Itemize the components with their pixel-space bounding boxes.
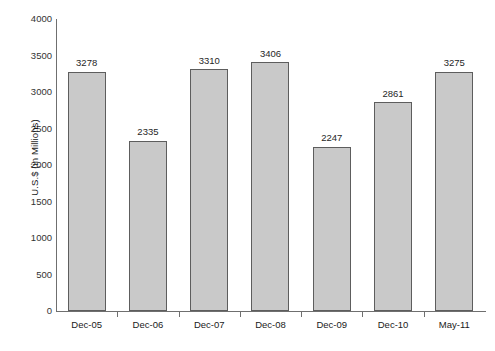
y-axis-tick-labels: 40003500300025002000150010005000 bbox=[0, 0, 52, 351]
y-axis-tick-label: 0 bbox=[8, 306, 52, 316]
x-axis-tick bbox=[301, 311, 302, 317]
x-axis-line bbox=[56, 311, 486, 312]
bar-value-label: 3406 bbox=[260, 49, 281, 59]
bar bbox=[374, 102, 412, 311]
bar-value-label: 2247 bbox=[321, 133, 342, 143]
bar bbox=[435, 72, 473, 311]
bar-group: 3278 bbox=[56, 19, 117, 311]
y-axis-tick-label: 3500 bbox=[8, 51, 52, 61]
bar-value-label: 2861 bbox=[382, 89, 403, 99]
bar bbox=[68, 72, 106, 311]
y-axis-title: U.S.$ (in Millions) bbox=[29, 98, 40, 218]
x-axis-tick bbox=[362, 311, 363, 317]
y-axis-tick-label: 3000 bbox=[8, 87, 52, 97]
chart-title-cropped bbox=[0, 0, 495, 7]
bar-group: 2861 bbox=[362, 19, 423, 311]
plot-area: 3278233533103406224728613275 bbox=[56, 19, 485, 311]
bar-value-label: 3278 bbox=[76, 58, 97, 68]
bar-group: 3406 bbox=[240, 19, 301, 311]
bar bbox=[190, 69, 228, 311]
bar-value-label: 2335 bbox=[137, 127, 158, 137]
y-axis-tick-label: 4000 bbox=[8, 14, 52, 24]
x-axis-category-label: May-11 bbox=[414, 320, 494, 330]
y-axis-tick-label: 500 bbox=[8, 270, 52, 280]
y-axis-tick-label: 1000 bbox=[8, 233, 52, 243]
bar-group: 2247 bbox=[301, 19, 362, 311]
x-axis-tick bbox=[179, 311, 180, 317]
bar-group: 3275 bbox=[424, 19, 485, 311]
bar-group: 2335 bbox=[117, 19, 178, 311]
bar bbox=[129, 141, 167, 311]
bar-value-label: 3310 bbox=[199, 56, 220, 66]
chart-screenshot: 40003500300025002000150010005000 U.S.$ (… bbox=[0, 0, 495, 351]
x-axis-tick bbox=[424, 311, 425, 317]
bar-value-label: 3275 bbox=[444, 58, 465, 68]
bar bbox=[251, 62, 289, 311]
x-axis-tick bbox=[117, 311, 118, 317]
x-axis-tick bbox=[240, 311, 241, 317]
bar bbox=[313, 147, 351, 311]
bar-group: 3310 bbox=[179, 19, 240, 311]
